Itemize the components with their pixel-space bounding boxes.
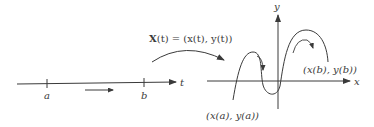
start-point-label: (x(a), y(a)) [206,111,259,121]
end-point-label: (x(b), y(b)) [303,65,357,75]
parametric-curve-diagram: X(t) = (x(t), y(t)) t a b x y (x(a), y(a… [0,0,374,127]
y-axis-label: y [274,2,280,12]
t-axis [17,78,176,90]
mapping-label: X(t) = (x(t), y(t)) [149,34,232,44]
xy-axes [207,15,350,109]
curve-direction-arrow-2 [293,40,313,53]
t-axis-label: t [180,78,184,88]
x-axis-label: x [354,77,360,87]
tick-b-label: b [141,91,147,101]
mapping-arrow [152,50,224,62]
tick-a-label: a [44,91,50,101]
